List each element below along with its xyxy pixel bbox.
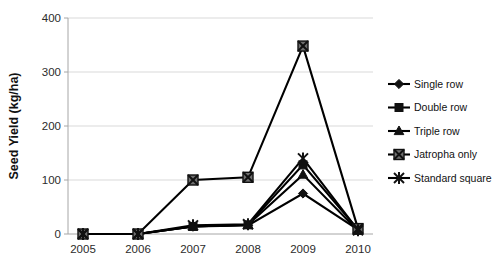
legend-label-0: Single row — [414, 78, 463, 90]
y-axis-title: Seed Yield (kg/ha) — [7, 73, 21, 180]
y-tick-label: 100 — [42, 174, 61, 186]
y-tick-label: 300 — [42, 66, 61, 78]
x-tick-label: 2006 — [125, 243, 151, 255]
x-tick-label: 2010 — [345, 243, 371, 255]
series-3-point-4 — [298, 41, 308, 51]
y-tick-label: 200 — [42, 120, 61, 132]
legend-item-0[interactable]: Single row — [388, 78, 463, 90]
series-3-point-3 — [243, 172, 253, 182]
y-tick-label: 0 — [55, 228, 61, 240]
x-tick-label: 2008 — [235, 243, 261, 255]
x-tick-label: 2009 — [290, 243, 316, 255]
legend-item-3[interactable]: Jatropha only — [388, 148, 478, 160]
x-tick-label: 2007 — [180, 243, 206, 255]
series-3-point-2 — [188, 175, 198, 185]
legend-marker-x-in-square — [394, 150, 404, 160]
legend-item-2[interactable]: Triple row — [388, 125, 460, 137]
legend-label-1: Double row — [414, 101, 468, 113]
legend-item-1[interactable]: Double row — [388, 101, 468, 113]
legend-item-4[interactable]: Standard square — [388, 172, 492, 184]
legend-label-2: Triple row — [414, 125, 460, 137]
y-tick-label: 400 — [42, 12, 61, 24]
chart-figure: 0100200300400 200520062007200820092010 S… — [0, 0, 500, 272]
legend-marker-square — [395, 104, 403, 112]
seed-yield-line-chart: 0100200300400 200520062007200820092010 S… — [0, 0, 500, 272]
legend-label-3: Jatropha only — [414, 148, 478, 160]
x-tick-label: 2005 — [70, 243, 96, 255]
legend-label-4: Standard square — [414, 172, 492, 184]
